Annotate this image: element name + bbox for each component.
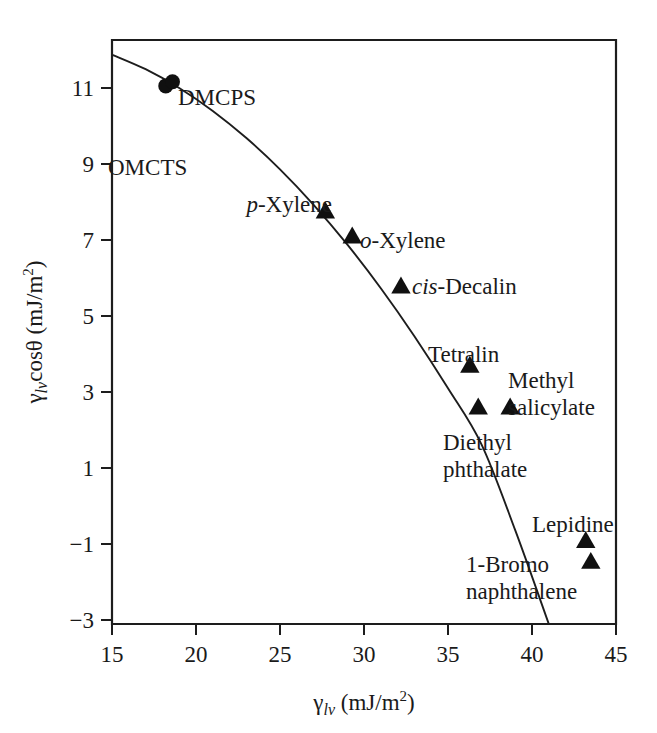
label-naphthalene: naphthalene xyxy=(466,579,577,604)
x-tick-label-20: 20 xyxy=(185,642,208,667)
x-tick-label-45: 45 xyxy=(605,642,628,667)
y-axis-cos: cosθ xyxy=(22,340,47,382)
y-tick-label-neg1: −1 xyxy=(70,532,94,557)
label-o-xylene-prefix: o xyxy=(360,228,372,253)
label-methyl: Methyl xyxy=(508,368,574,393)
y-tick-label-7: 7 xyxy=(83,228,95,253)
label-o-xylene: o-Xylene xyxy=(360,228,446,253)
y-axis-gamma: γ xyxy=(22,393,47,404)
label-salicylate: salicylate xyxy=(508,395,595,420)
y-tick-label-1: 1 xyxy=(83,456,95,481)
label-p-xylene-body: -Xylene xyxy=(258,192,332,217)
label-phthalate: phthalate xyxy=(443,457,527,482)
y-axis-units-open: (mJ/m xyxy=(22,276,47,341)
x-tick-label-35: 35 xyxy=(437,642,460,667)
label-tetralin: Tetralin xyxy=(428,342,500,367)
y-axis-units-close: ) xyxy=(22,260,47,268)
y-tick-label-11: 11 xyxy=(72,76,94,101)
label-cis-decalin: cis-Decalin xyxy=(412,274,517,299)
label-omcts: OMCTS xyxy=(108,155,187,180)
label-p-xylene-prefix: p xyxy=(244,192,258,217)
y-tick-label-3: 3 xyxy=(83,380,95,405)
label-cis-decalin-prefix: cis xyxy=(412,274,438,299)
x-axis-gamma: γ xyxy=(312,690,323,715)
label-diethyl: Diethyl xyxy=(443,430,512,455)
label-cis-decalin-body: -Decalin xyxy=(438,274,518,299)
label-dmcps: DMCPS xyxy=(178,85,256,110)
chart-svg: 11 9 7 5 3 1 −1 −3 15 20 25 30 35 40 xyxy=(0,0,657,733)
label-p-xylene: p-Xylene xyxy=(244,192,332,217)
y-axis-units-sup: 2 xyxy=(20,268,36,276)
x-tick-label-15: 15 xyxy=(101,642,124,667)
y-tick-label-5: 5 xyxy=(83,304,95,329)
x-axis-units-open: (mJ/m xyxy=(335,690,400,715)
y-tick-label-neg3: −3 xyxy=(70,608,94,633)
chart-figure: 11 9 7 5 3 1 −1 −3 15 20 25 30 35 40 xyxy=(0,0,657,733)
label-lepidine: Lepidine xyxy=(532,512,614,537)
label-bromo: 1-Bromo xyxy=(466,552,549,577)
x-axis-units-close: ) xyxy=(407,690,415,715)
x-tick-label-25: 25 xyxy=(269,642,292,667)
x-tick-label-40: 40 xyxy=(521,642,544,667)
label-o-xylene-body: -Xylene xyxy=(372,228,446,253)
x-axis-units-sup: 2 xyxy=(400,688,408,704)
y-tick-label-9: 9 xyxy=(83,152,95,177)
x-tick-label-30: 30 xyxy=(353,642,376,667)
